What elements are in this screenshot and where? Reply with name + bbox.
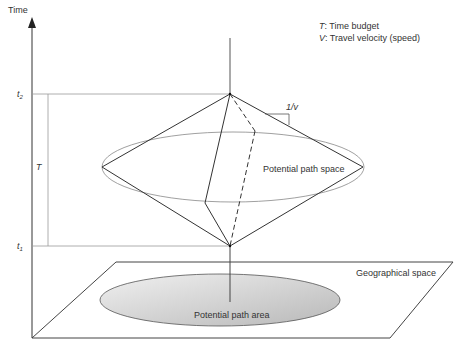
hidden-path-dashed [230,94,255,246]
apex-bottom-dot [229,245,231,247]
time-axis-arrow-icon [28,17,36,28]
legend-time-budget: T: Time budget [319,21,380,31]
potential-path-area-label: Potential path area [194,310,270,320]
time-budget-label: T [36,162,43,172]
time-axis-label: Time [8,5,28,15]
potential-path-space-label: Potential path space [263,164,345,174]
slope-label: 1/v [286,102,299,112]
time-geography-diagram: Time t2 t1 T T: Time budget V: Travel ve… [0,0,460,346]
geographical-space-label: Geographical space [356,268,436,278]
t1-label: t1 [17,241,23,252]
legend-travel-velocity: V: Travel velocity (speed) [319,33,420,43]
apex-top-dot [229,93,231,95]
t2-label: t2 [17,89,24,100]
